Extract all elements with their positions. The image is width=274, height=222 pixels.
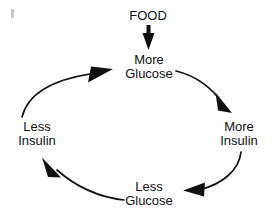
- node-label-less-insulin: Less Insulin: [2, 120, 72, 148]
- node-label-more-glucose: More Glucose: [113, 53, 185, 81]
- node-label-less-glucose: Less Glucose: [113, 180, 185, 208]
- node-label-food: FOOD: [113, 9, 183, 23]
- node-label-more-insulin: More Insulin: [204, 120, 274, 148]
- arrow-less-insulin-to-more-glucose: [22, 67, 113, 118]
- arrow-less-glucose-to-less-insulin: [42, 158, 124, 201]
- arrow-more-insulin-to-less-glucose: [183, 152, 241, 197]
- cycle-diagram: FOOD More Glucose More Insulin Less Gluc…: [0, 0, 274, 222]
- arrow-food-to-more-glucose: [143, 25, 155, 50]
